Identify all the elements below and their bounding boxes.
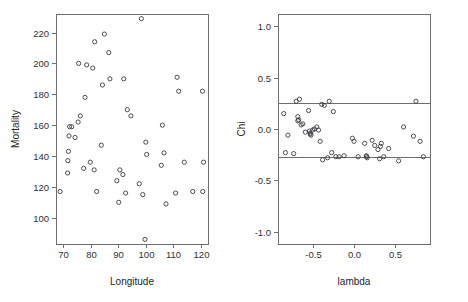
y-tick-label: 120 — [33, 182, 49, 193]
x-axis-title: Longitude — [110, 276, 154, 287]
data-point — [303, 130, 307, 134]
y-tick-label: 0.0 — [258, 124, 271, 135]
data-point — [91, 66, 95, 70]
data-point — [411, 134, 415, 138]
data-point — [297, 97, 301, 101]
data-point — [191, 189, 195, 193]
figure-canvas: 708090100110120100120140160180200220Long… — [0, 0, 468, 302]
data-point — [66, 149, 70, 153]
data-point — [66, 171, 70, 175]
data-point — [356, 155, 360, 159]
data-point — [330, 151, 334, 155]
data-point — [122, 77, 126, 81]
data-point — [283, 151, 287, 155]
x-tick-label: -0.5 — [305, 249, 321, 260]
data-point — [121, 172, 125, 176]
data-point — [144, 140, 148, 144]
data-point — [107, 50, 111, 54]
data-point — [200, 89, 204, 93]
data-point — [414, 99, 418, 103]
data-point — [177, 89, 181, 93]
data-point — [373, 143, 377, 147]
data-point — [78, 114, 82, 118]
right-plot-svg: -0.50.00.5-1.0-0.50.00.51.0lambdaChi — [234, 0, 468, 302]
scatter-panel-lambda-chi: -0.50.00.5-1.0-0.50.00.51.0lambdaChi — [234, 0, 468, 302]
data-point — [82, 166, 86, 170]
left-plot-svg: 708090100110120100120140160180200220Long… — [0, 0, 234, 302]
data-point — [331, 109, 335, 113]
data-point — [73, 135, 77, 139]
y-tick-label: 0.5 — [258, 73, 271, 84]
data-point — [164, 202, 168, 206]
data-point — [129, 114, 133, 118]
data-point — [201, 160, 205, 164]
data-point — [139, 17, 143, 21]
y-tick-label: 220 — [33, 28, 49, 39]
y-tick-label: 1.0 — [258, 21, 271, 32]
y-tick-label: 140 — [33, 151, 49, 162]
data-point — [306, 108, 310, 112]
y-axis-title: Chi — [236, 121, 247, 136]
data-point — [76, 120, 80, 124]
x-tick-label: 90 — [113, 249, 124, 260]
data-point — [124, 191, 128, 195]
data-point — [421, 155, 425, 159]
data-point — [382, 155, 386, 159]
y-tick-label: 180 — [33, 89, 49, 100]
x-axis-title: lambda — [338, 276, 371, 287]
data-point — [88, 160, 92, 164]
y-tick-label: 200 — [33, 58, 49, 69]
data-point — [318, 139, 322, 143]
data-point — [159, 163, 163, 167]
data-point — [387, 146, 391, 150]
scatter-panel-longitude-mortality: 708090100110120100120140160180200220Long… — [0, 0, 234, 302]
data-point — [286, 133, 290, 137]
data-point — [67, 134, 71, 138]
x-tick-label: 70 — [58, 249, 69, 260]
x-tick-label: 120 — [194, 249, 210, 260]
x-tick-label: 110 — [166, 249, 181, 260]
data-point — [292, 152, 296, 156]
y-tick-label: -0.5 — [255, 175, 271, 186]
data-point — [174, 191, 178, 195]
data-point — [100, 83, 104, 87]
data-point — [145, 152, 149, 156]
data-point — [363, 141, 367, 145]
data-point — [160, 123, 164, 127]
data-point — [125, 108, 129, 112]
x-tick-label: 0.5 — [389, 249, 402, 260]
data-point — [401, 125, 405, 129]
data-point — [321, 158, 325, 162]
data-point — [118, 168, 122, 172]
data-point — [77, 61, 81, 65]
data-point — [117, 200, 121, 204]
data-point — [370, 138, 374, 142]
y-tick-label: 160 — [33, 120, 49, 131]
data-point — [108, 77, 112, 81]
data-point — [397, 159, 401, 163]
x-tick-label: 0.0 — [348, 249, 361, 260]
data-point — [92, 168, 96, 172]
data-point — [66, 159, 70, 163]
data-point — [95, 189, 99, 193]
data-point — [83, 95, 87, 99]
data-point — [141, 193, 145, 197]
x-tick-label: 80 — [86, 249, 97, 260]
data-point — [418, 139, 422, 143]
data-point — [93, 40, 97, 44]
data-point — [99, 143, 103, 147]
data-point — [201, 189, 205, 193]
data-point — [115, 179, 119, 183]
data-point — [182, 160, 186, 164]
data-point — [143, 237, 147, 241]
x-tick-label: 100 — [139, 249, 155, 260]
data-point — [85, 63, 89, 67]
y-axis-title: Mortality — [10, 110, 21, 148]
y-tick-label: -1.0 — [255, 227, 271, 238]
data-point — [327, 99, 331, 103]
data-point — [137, 182, 141, 186]
data-point — [102, 32, 106, 36]
y-tick-label: 100 — [33, 213, 49, 224]
data-point — [162, 151, 166, 155]
data-point — [175, 75, 179, 79]
